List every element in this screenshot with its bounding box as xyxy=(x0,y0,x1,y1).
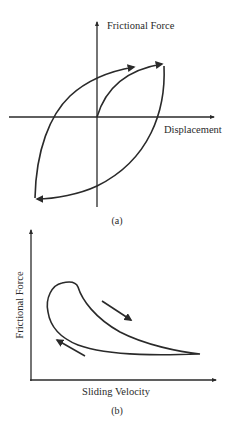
panel-a-ascending-branch xyxy=(35,67,134,198)
panel-b-y-axis-label: Frictional Force xyxy=(14,271,25,339)
panel-a-caption: (a) xyxy=(111,215,122,227)
panel-b-friction-loop xyxy=(47,282,200,355)
panel-a-descending-branch xyxy=(37,66,164,199)
panel-b-x-axis-label: Sliding Velocity xyxy=(82,386,151,397)
panel-a-initial-curve xyxy=(97,64,162,117)
panel-b-velocity-loop: Frictional Force Sliding Velocity (b) xyxy=(14,230,216,417)
panel-b-arrow-decreasing xyxy=(102,301,131,320)
panel-a-y-axis-label: Frictional Force xyxy=(107,20,175,31)
panel-b-caption: (b) xyxy=(111,405,123,417)
panel-a-hysteresis: Frictional Force Displacement (a) xyxy=(9,20,222,227)
figure: Frictional Force Displacement (a) Fricti… xyxy=(0,0,235,431)
panel-a-x-axis-label: Displacement xyxy=(164,124,222,135)
